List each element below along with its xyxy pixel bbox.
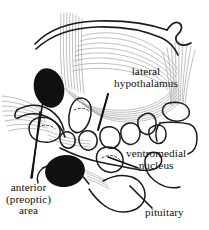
- label-ventromedial-nucleus: ventromedial nucleus: [126, 148, 186, 171]
- label-anterior-preoptic-area-line1: anterior: [6, 182, 51, 194]
- label-lateral-hypothalamus-line1: lateral: [114, 66, 178, 78]
- label-anterior-preoptic-area: anterior (preoptic) area: [6, 182, 51, 217]
- label-lateral-hypothalamus: lateral hypothalamus: [114, 66, 178, 89]
- label-pituitary: pituitary: [145, 207, 184, 219]
- hypothalamus-figure: lateral hypothalamus ventromedial nucleu…: [0, 0, 209, 230]
- label-ventromedial-nucleus-line2: nucleus: [126, 160, 186, 172]
- label-lateral-hypothalamus-line2: hypothalamus: [114, 78, 178, 90]
- label-anterior-preoptic-area-line3: area: [6, 205, 51, 217]
- label-pituitary-line1: pituitary: [145, 207, 184, 219]
- label-ventromedial-nucleus-line1: ventromedial: [126, 148, 186, 160]
